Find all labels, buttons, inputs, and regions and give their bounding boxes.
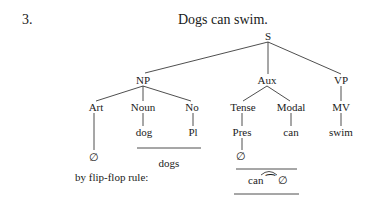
node-modal: Modal [277,102,306,113]
node-art: Art [89,102,104,113]
terminal-dog: dog [136,127,153,138]
node-vp: VP [334,75,348,86]
node-noun: Noun [131,102,155,113]
node-no: No [185,102,198,113]
sentence-title: Dogs can swim. [178,13,268,27]
np-surface-dogs: dogs [159,158,180,169]
aux-surface: can ⁀ ∅ [248,175,288,186]
art-null: ∅ [89,152,99,163]
node-s: S [265,31,271,42]
node-aux: Aux [258,75,277,86]
node-mv: MV [332,102,350,113]
terminal-swim: swim [329,127,353,138]
example-number: 3. [22,13,33,27]
terminal-can: can [283,127,298,138]
terminal-pres: Pres [233,127,252,138]
tense-null: ∅ [236,151,246,162]
terminal-pl: Pl [188,127,197,138]
tree-branches [0,0,367,200]
flip-flop-label: by flip-flop rule: [75,172,148,183]
node-tense: Tense [230,102,256,113]
node-np: NP [136,75,150,86]
